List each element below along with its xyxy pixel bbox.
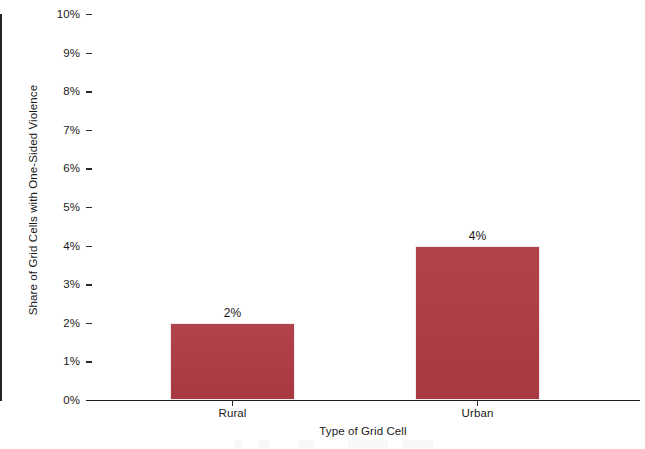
bar-urban — [415, 246, 540, 400]
bar-chart: Share of Grid Cells with One-Sided Viole… — [0, 0, 645, 449]
y-tick-label-7: 7% — [6, 124, 80, 136]
y-tick-mark-3 — [86, 284, 92, 285]
bar-value-label-rural: 2% — [170, 306, 295, 320]
y-tick-mark-8 — [86, 91, 92, 92]
y-tick-label-2: 2% — [6, 317, 80, 329]
y-tick-label-4: 4% — [6, 240, 80, 252]
y-tick-mark-6 — [86, 168, 92, 169]
y-tick-label-9: 9% — [6, 47, 80, 59]
y-axis-line — [0, 14, 2, 401]
x-category-label-urban: Urban — [415, 406, 540, 420]
x-category-label-rural: Rural — [170, 406, 295, 420]
y-tick-label-0: 0% — [6, 394, 80, 406]
y-tick-mark-5 — [86, 207, 92, 208]
y-tick-mark-2 — [86, 323, 92, 324]
y-axis-tick-labels: 10% 9% 8% 7% 6% 5% 4% 3% 2% 1% 0% — [0, 0, 80, 449]
y-tick-label-3: 3% — [6, 278, 80, 290]
y-tick-label-8: 8% — [6, 85, 80, 97]
y-tick-label-6: 6% — [6, 162, 80, 174]
y-tick-label-10: 10% — [6, 8, 80, 20]
y-tick-mark-7 — [86, 130, 92, 131]
x-axis-title: Type of Grid Cell — [86, 424, 640, 438]
y-tick-mark-9 — [86, 53, 92, 54]
bar-rural — [170, 323, 295, 400]
y-tick-label-1: 1% — [6, 355, 80, 367]
y-tick-mark-1 — [86, 361, 92, 362]
y-tick-mark-4 — [86, 246, 92, 247]
y-tick-label-5: 5% — [6, 201, 80, 213]
scan-artifact — [228, 440, 438, 448]
bar-value-label-urban: 4% — [415, 229, 540, 243]
y-tick-mark-10 — [86, 14, 92, 15]
